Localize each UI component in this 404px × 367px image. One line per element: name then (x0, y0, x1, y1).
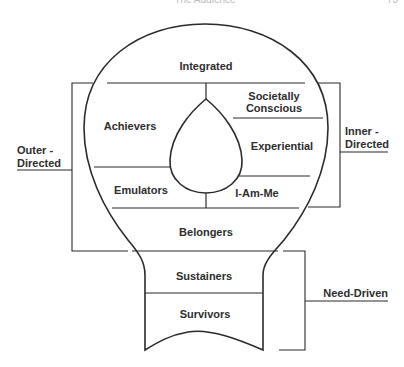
vals-bulb-diagram: The Audience 73 Integrated Achievers Soc… (0, 0, 404, 367)
segment-sustainers: Sustainers (176, 270, 232, 282)
segment-emulators: Emulators (114, 184, 168, 196)
segment-survivors: Survivors (180, 308, 231, 320)
group-need-driven: Need-Driven (323, 287, 388, 299)
teardrop-core (170, 99, 242, 193)
group-inner-directed-line2: Directed (345, 138, 389, 150)
segment-experiential: Experiential (251, 140, 313, 152)
segment-belongers: Belongers (179, 226, 233, 238)
segment-societally-conscious-line2: Conscious (246, 102, 302, 114)
segment-achievers: Achievers (104, 120, 157, 132)
segment-integrated: Integrated (179, 60, 232, 72)
group-outer-directed-line2: Directed (17, 157, 61, 169)
bracket-need-driven (279, 251, 305, 350)
group-inner-directed-line1: Inner - (345, 125, 379, 137)
running-header-title: The Audience (174, 0, 236, 5)
page-number: 73 (387, 0, 399, 5)
group-outer-directed-line1: Outer - (17, 144, 53, 156)
segment-societally-conscious-line1: Societally (248, 90, 300, 102)
segment-i-am-me: I-Am-Me (235, 187, 278, 199)
